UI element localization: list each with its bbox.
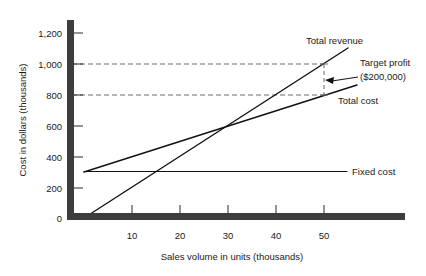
x-tick-label-40: 40 xyxy=(271,230,282,241)
y-tick-label-0: 0 xyxy=(57,213,62,224)
target-profit-label-line2: ($200,000) xyxy=(360,71,406,82)
chart-canvas: 1,200 1,000 800 600 400 200 0 10 20 30 4… xyxy=(0,0,426,276)
y-tick-label-1000: 1,000 xyxy=(38,59,62,70)
series-label-fixed-cost: Fixed cost xyxy=(352,166,396,177)
x-tick-label-10: 10 xyxy=(127,230,138,241)
x-tick-label-30: 30 xyxy=(223,230,234,241)
y-tick-label-1200: 1,200 xyxy=(38,28,62,39)
x-axis-title: Sales volume in units (thousands) xyxy=(161,251,304,262)
x-axis xyxy=(67,213,405,220)
y-tick-label-200: 200 xyxy=(46,183,62,194)
y-axis xyxy=(67,20,74,220)
y-tick-label-800: 800 xyxy=(46,90,62,101)
x-tick-label-50: 50 xyxy=(319,230,330,241)
y-axis-title: Cost in dollars (thousands) xyxy=(17,64,28,177)
y-tick-label-600: 600 xyxy=(46,121,62,132)
series-label-total-revenue: Total revenue xyxy=(306,35,363,46)
break-even-chart: 1,200 1,000 800 600 400 200 0 10 20 30 4… xyxy=(0,0,426,276)
target-profit-label-line1: Target profit xyxy=(360,57,411,68)
y-tick-label-400: 400 xyxy=(46,152,62,163)
x-tick-label-20: 20 xyxy=(175,230,186,241)
series-label-total-cost: Total cost xyxy=(338,95,378,106)
